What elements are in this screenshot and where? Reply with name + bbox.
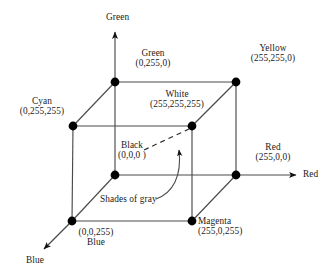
edge-magenta-red bbox=[192, 175, 236, 221]
shades-of-gray-label: Shades of gray bbox=[100, 194, 157, 204]
vertex-coord-yellow: (255,255,0) bbox=[233, 53, 313, 63]
vertex-label-red: Red (255,0,0) bbox=[240, 142, 306, 163]
vertex-label-magenta: Magenta (255,0,255) bbox=[198, 216, 282, 237]
vertex-coord-white: (255,255,255) bbox=[133, 99, 221, 109]
vertex-dot-green bbox=[111, 78, 120, 87]
vertex-coord-cyan: (0,255,255) bbox=[6, 106, 78, 116]
green-axis-label: Green bbox=[106, 12, 129, 22]
vertex-coord-red: (255,0,0) bbox=[240, 152, 306, 162]
edge-cyan-green bbox=[73, 82, 115, 126]
vertex-coord-green: (0,255,0) bbox=[122, 58, 184, 68]
vertex-label-green: Green (0,255,0) bbox=[122, 48, 184, 69]
vertex-name-red: Red bbox=[240, 142, 306, 152]
vertex-label-cyan: Cyan (0,255,255) bbox=[6, 96, 78, 117]
vertex-name-yellow: Yellow bbox=[233, 43, 313, 53]
vertex-dot-white bbox=[188, 122, 197, 131]
vertex-name-magenta: Magenta bbox=[198, 216, 282, 226]
vertex-coord-blue: (0,0,255) bbox=[60, 227, 132, 237]
vertex-name-blue: Blue bbox=[60, 237, 132, 247]
rgb-color-cube-figure: Green Red Blue Green (0,255,0) Yellow (2… bbox=[0, 0, 334, 278]
vertex-label-black: Black (0,0,0 ) bbox=[104, 140, 160, 161]
blue-axis-label: Blue bbox=[26, 255, 44, 265]
vertex-dot-magenta bbox=[188, 217, 197, 226]
vertex-name-white: White bbox=[133, 89, 221, 99]
edge-cyan-blue bbox=[72, 126, 73, 221]
cube-drawing bbox=[0, 0, 334, 278]
vertex-dot-red bbox=[232, 171, 241, 180]
vertex-dot-cyan bbox=[69, 122, 78, 131]
vertex-label-white: White (255,255,255) bbox=[133, 89, 221, 110]
vertex-dot-blue bbox=[68, 217, 77, 226]
vertex-name-cyan: Cyan bbox=[6, 96, 78, 106]
vertex-name-green: Green bbox=[122, 48, 184, 58]
vertex-name-black: Black bbox=[104, 140, 160, 150]
vertex-label-blue: (0,0,255) Blue bbox=[60, 227, 132, 248]
vertex-dot-black bbox=[111, 171, 120, 180]
vertex-label-yellow: Yellow (255,255,0) bbox=[233, 43, 313, 64]
vertex-coord-black: (0,0,0 ) bbox=[104, 150, 160, 160]
red-axis-label: Red bbox=[303, 169, 318, 179]
vertex-coord-magenta: (255,0,255) bbox=[198, 226, 282, 236]
vertex-dot-yellow bbox=[232, 78, 241, 87]
